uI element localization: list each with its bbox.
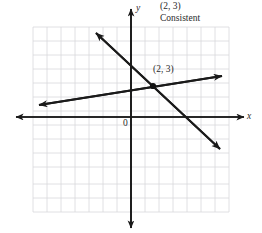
title-classification-text: Consistent bbox=[160, 13, 260, 25]
intersection-point-marker bbox=[150, 83, 156, 89]
y-axis-label: y bbox=[136, 3, 140, 13]
coordinate-plane-figure bbox=[0, 0, 262, 233]
x-axis-label: x bbox=[247, 111, 251, 121]
title-solution-text: (2, 3) bbox=[160, 1, 181, 11]
figure-title: (2, 3) Consistent bbox=[160, 1, 260, 24]
graph-screenshot: (2, 3) Consistent (2, 3) 0 y x bbox=[0, 0, 262, 233]
origin-label: 0 bbox=[123, 118, 128, 128]
intersection-point-label: (2, 3) bbox=[153, 64, 174, 74]
